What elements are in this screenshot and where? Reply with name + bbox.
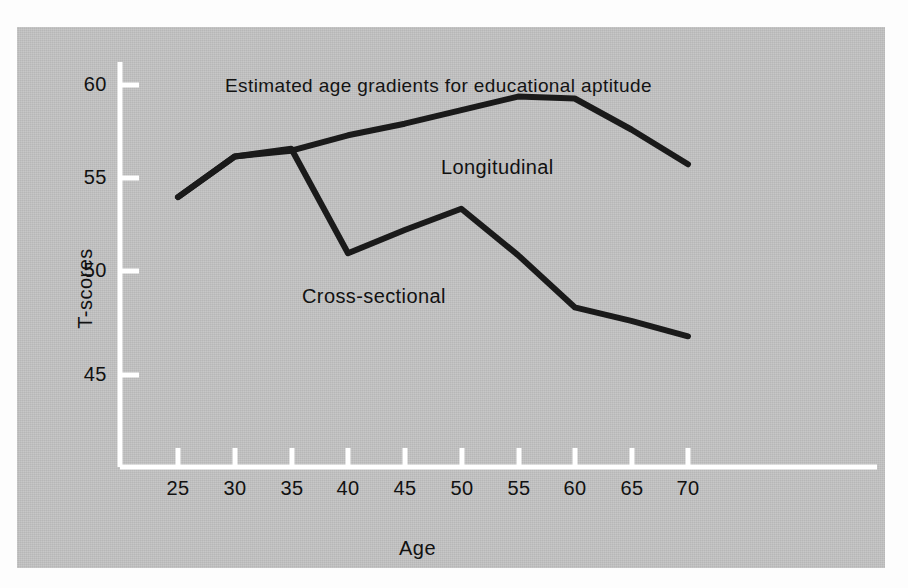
series-line-longitudinal	[178, 97, 688, 198]
series-label-longitudinal: Longitudinal	[441, 156, 554, 179]
series-label-cross-sectional: Cross-sectional	[302, 285, 446, 308]
x-axis-ticks	[178, 448, 688, 467]
y-axis-title: T-scores	[74, 219, 97, 359]
x-tick-label-30: 30	[205, 477, 265, 500]
x-tick-label-65: 65	[602, 477, 662, 500]
y-tick-label-50: 50	[37, 259, 107, 282]
y-tick-label-60: 60	[37, 73, 107, 96]
x-tick-label-70: 70	[658, 477, 718, 500]
x-tick-label-35: 35	[262, 477, 322, 500]
figure-container: Estimated age gradients for educational …	[0, 0, 908, 588]
x-tick-label-40: 40	[318, 477, 378, 500]
y-tick-label-55: 55	[37, 166, 107, 189]
x-tick-label-50: 50	[432, 477, 492, 500]
y-tick-label-45: 45	[37, 363, 107, 386]
chart-plot-panel: Estimated age gradients for educational …	[17, 27, 885, 568]
x-tick-label-45: 45	[375, 477, 435, 500]
x-tick-label-25: 25	[148, 477, 208, 500]
x-tick-label-60: 60	[545, 477, 605, 500]
series-line-cross-sectional	[178, 149, 688, 336]
x-tick-label-55: 55	[489, 477, 549, 500]
y-axis-ticks	[120, 85, 139, 375]
x-axis-title: Age	[399, 537, 436, 560]
chart-title: Estimated age gradients for educational …	[225, 75, 652, 97]
